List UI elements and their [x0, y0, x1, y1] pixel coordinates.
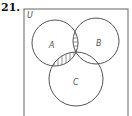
- universe-label: U: [27, 11, 33, 20]
- label-a: A: [48, 41, 54, 50]
- label-b: B: [96, 39, 102, 48]
- venn-diagram: U A B C: [0, 0, 132, 116]
- label-c: C: [73, 78, 79, 87]
- circle-a: [32, 20, 78, 66]
